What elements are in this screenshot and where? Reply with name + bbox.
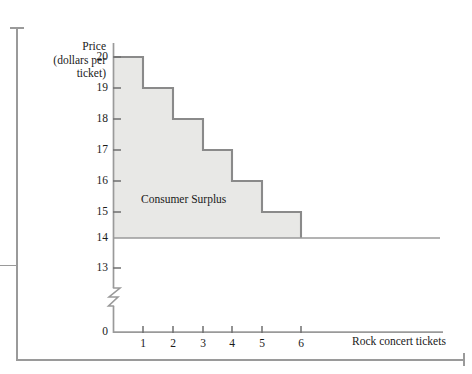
- y-tick-label-15: 15: [84, 206, 108, 218]
- y-tick-label-19: 19: [84, 82, 108, 94]
- consumer-surplus-annotation: Consumer Surplus: [141, 194, 226, 206]
- x-tick-label-6: 6: [292, 338, 310, 350]
- y-tick-label-20: 20: [84, 51, 108, 63]
- x-tick-label-3: 3: [194, 338, 212, 350]
- x-tick-label-5: 5: [253, 338, 271, 350]
- x-axis-title: Rock concert tickets: [352, 336, 446, 348]
- consumer-surplus-figure: Price (dollars per ticket) 20 19 18 17 1…: [0, 0, 472, 374]
- y-tick-label-17: 17: [84, 144, 108, 156]
- y-axis-title-line-3: ticket): [18, 67, 106, 81]
- x-tick-label-4: 4: [223, 338, 241, 350]
- y-tick-label-0: 0: [84, 326, 108, 338]
- y-tick-label-13: 13: [84, 262, 108, 274]
- y-tick-label-14: 14: [84, 232, 108, 244]
- y-tick-label-16: 16: [84, 175, 108, 187]
- y-tick-label-18: 18: [84, 113, 108, 125]
- x-tick-label-2: 2: [164, 338, 182, 350]
- y-axis-break-zigzag: [109, 288, 121, 306]
- x-tick-label-1: 1: [134, 338, 152, 350]
